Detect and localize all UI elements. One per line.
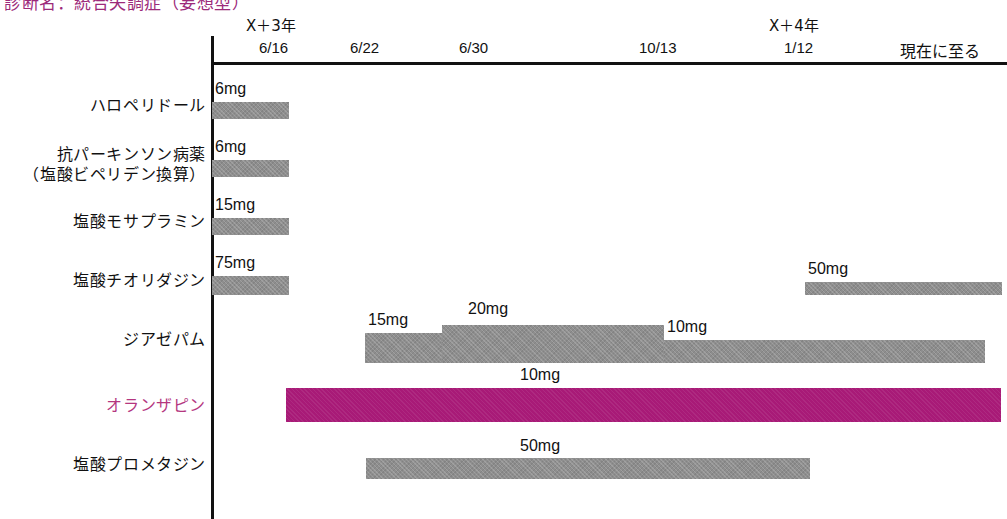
axis-date-label-0616: 6/16 <box>259 39 288 56</box>
axis-year-label-x4: X＋4年 <box>769 14 819 35</box>
medication-bar <box>212 160 289 177</box>
row-label-line: 塩酸プロメタジン <box>0 455 206 475</box>
row-label-mosapramine: 塩酸モサプラミン <box>0 212 206 232</box>
medication-bar <box>664 340 985 363</box>
row-label-line: （塩酸ビペリデン換算） <box>0 165 206 185</box>
dose-label: 15mg <box>368 311 408 329</box>
row-label-diazepam: ジアゼパム <box>0 330 206 350</box>
x-axis-origin-tick <box>211 38 214 64</box>
axis-end-note: 現在に至る <box>900 38 980 62</box>
diagnosis-title: 診断名：統合失調症（妄想型） <box>4 0 249 14</box>
dose-label: 50mg <box>520 437 560 455</box>
dose-label: 50mg <box>808 260 848 278</box>
medication-bar <box>805 282 1002 295</box>
row-label-promethazine: 塩酸プロメタジン <box>0 455 206 475</box>
medication-bar <box>442 325 664 363</box>
axis-date-label-0112: 1/12 <box>784 39 813 56</box>
row-label-thioridazine: 塩酸チオリダジン <box>0 271 206 291</box>
axis-date-label-1013: 10/13 <box>639 39 677 56</box>
dose-label: 20mg <box>468 300 508 318</box>
axis-year-label-x3: X＋3年 <box>246 14 296 35</box>
row-label-line: ジアゼパム <box>0 330 206 350</box>
row-label-antiparkinson: 抗パーキンソン病薬 （塩酸ビペリデン換算） <box>0 145 206 185</box>
axis-date-label-0622: 6/22 <box>350 39 379 56</box>
dose-label: 6mg <box>215 80 246 98</box>
medication-bar <box>212 102 289 119</box>
medication-bar <box>366 458 810 479</box>
dose-label: 15mg <box>215 196 255 214</box>
row-label-haloperidol: ハロペリドール <box>0 96 206 116</box>
dose-label: 10mg <box>667 318 707 336</box>
medication-bar <box>212 276 289 295</box>
medication-bar <box>286 388 1001 422</box>
axis-date-label-0630: 6/30 <box>459 39 488 56</box>
row-label-olanzapine: オランザピン <box>0 396 206 416</box>
dose-label: 75mg <box>215 254 255 272</box>
medication-bar <box>365 333 442 363</box>
medication-timeline-chart: 診断名：統合失調症（妄想型） X＋3年 X＋4年 6/16 6/22 6/30 … <box>0 0 1007 519</box>
row-label-line: 塩酸モサプラミン <box>0 212 206 232</box>
row-label-line: 抗パーキンソン病薬 <box>0 145 206 165</box>
dose-label: 6mg <box>215 138 246 156</box>
row-label-line: ハロペリドール <box>0 96 206 116</box>
x-axis-line <box>211 62 1007 65</box>
row-label-line: 塩酸チオリダジン <box>0 271 206 291</box>
medication-bar <box>212 218 289 235</box>
row-label-line: オランザピン <box>0 396 206 416</box>
dose-label: 10mg <box>520 366 560 384</box>
